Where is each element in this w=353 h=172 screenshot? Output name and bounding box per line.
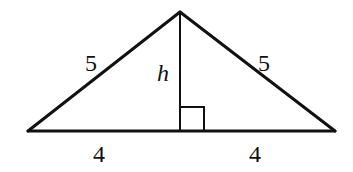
right-angle-marker [181,107,204,131]
left-side-label: 5 [85,50,97,76]
right-side-label: 5 [258,50,270,76]
triangle-diagram: 5 5 h 4 4 [0,0,353,172]
left-base-label: 4 [93,141,105,167]
right-base-label: 4 [249,141,261,167]
height-label: h [157,60,169,86]
